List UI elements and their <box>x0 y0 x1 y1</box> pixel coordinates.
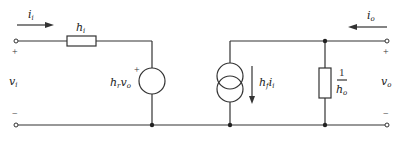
output-voltage-label: vo <box>381 75 391 89</box>
output-minus-sign: − <box>383 108 389 119</box>
input-resistor-label: hi <box>76 21 85 35</box>
voltage-source <box>139 68 165 94</box>
output-arrow-head-icon <box>348 24 357 30</box>
input-minus-sign: − <box>12 108 18 119</box>
output-terminal-plus <box>385 39 389 43</box>
output-resistor-numerator: 1 <box>339 66 345 78</box>
input-terminal-plus <box>14 39 18 43</box>
input-current-label: ii <box>28 8 34 22</box>
output-resistor-ho <box>319 68 331 98</box>
junction-dot <box>323 39 327 43</box>
output-current-label: io <box>367 9 375 23</box>
input-arrow-head-icon <box>45 22 54 28</box>
output-terminal-minus <box>385 123 389 127</box>
voltage-source-plus: + <box>134 64 140 75</box>
output-plus-sign: + <box>383 46 389 57</box>
dependent-arrow-head-icon <box>249 96 255 104</box>
input-plus-sign: + <box>12 46 18 57</box>
output-resistor-denominator: ho <box>336 83 347 97</box>
junction-dot <box>323 123 327 127</box>
input-terminal-minus <box>14 123 18 127</box>
input-voltage-label: vi <box>9 75 17 89</box>
junction-dot <box>228 123 232 127</box>
current-source-label: hfii <box>259 76 274 90</box>
circuit-diagram: ii hi + vi − hrvo + hfii 1 ho io + vo − <box>0 0 402 141</box>
input-resistor-hi <box>67 36 96 46</box>
junction-dot <box>150 123 154 127</box>
voltage-source-label: hrvo <box>110 76 131 90</box>
